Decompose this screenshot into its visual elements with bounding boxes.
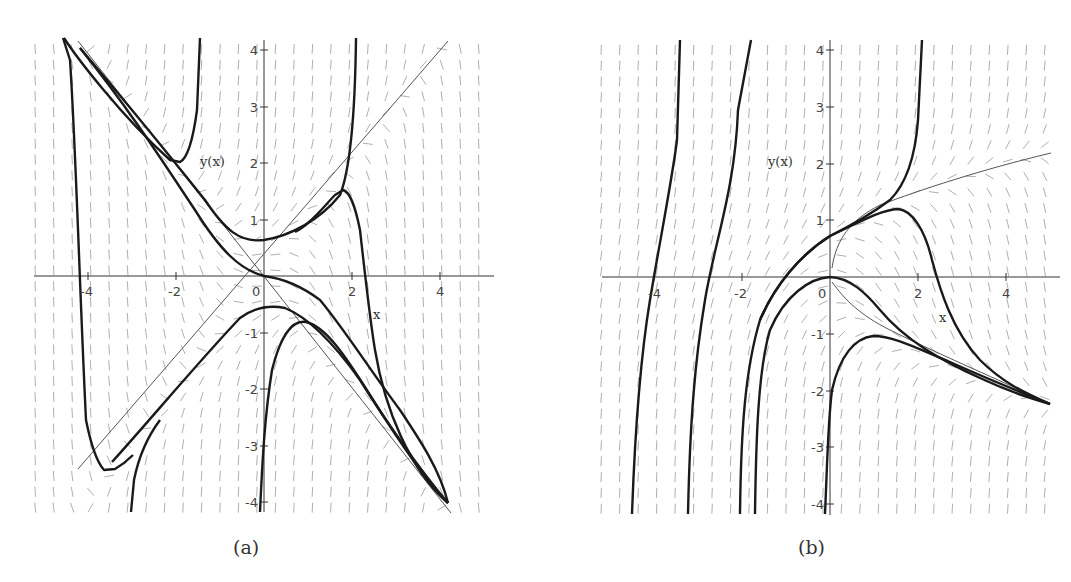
field-arrow	[127, 155, 128, 165]
field-arrow	[896, 108, 897, 118]
field-arrow	[749, 140, 750, 150]
field-arrow	[896, 440, 897, 450]
field-arrow	[1006, 124, 1009, 134]
field-arrow	[730, 409, 731, 419]
field-arrow	[272, 330, 278, 338]
field-arrow	[929, 365, 939, 367]
field-arrow	[1044, 456, 1045, 466]
curve-upper-left-cusp	[64, 38, 200, 162]
field-arrow	[932, 235, 936, 244]
field-arrow	[785, 187, 787, 197]
field-arrow	[161, 409, 168, 416]
field-arrow	[818, 254, 827, 258]
y-tick-label: 1	[250, 213, 258, 228]
field-arrow	[970, 251, 972, 261]
field-arrow	[460, 439, 461, 449]
field-arrow	[90, 107, 91, 117]
field-arrow	[601, 425, 602, 435]
field-arrow	[1007, 456, 1008, 466]
field-arrow	[875, 237, 883, 244]
field-arrow	[952, 77, 953, 87]
y-tick-label: 4	[816, 43, 824, 58]
field-arrow	[822, 425, 823, 435]
field-arrow	[767, 409, 768, 419]
field-arrow	[767, 488, 768, 498]
field-arrow	[365, 155, 370, 164]
field-arrow	[423, 139, 424, 149]
field-arrow	[859, 393, 861, 403]
field-arrow	[822, 409, 823, 419]
field-arrow	[767, 472, 768, 482]
field-arrow	[309, 187, 315, 195]
field-arrow	[970, 298, 973, 308]
y-tick-label: 4	[250, 43, 258, 58]
field-arrow	[423, 218, 424, 228]
field-arrow	[969, 409, 972, 419]
field-arrow	[459, 44, 461, 54]
field-arrow	[637, 235, 639, 245]
y-tick-label: -3	[245, 439, 258, 454]
field-arrow	[238, 439, 239, 449]
y-tick-label: -1	[811, 327, 824, 342]
field-arrow	[348, 345, 352, 354]
field-arrow	[349, 471, 350, 481]
field-arrow	[90, 170, 91, 180]
field-arrow	[896, 124, 897, 134]
field-arrow	[823, 456, 824, 466]
field-arrow	[400, 96, 410, 98]
field-arrow	[109, 155, 110, 165]
field-arrow	[90, 76, 92, 86]
field-arrow	[619, 156, 620, 166]
field-arrow	[238, 408, 239, 418]
field-arrow	[294, 503, 295, 513]
field-arrow	[748, 346, 750, 356]
lower-isocline	[832, 282, 1050, 404]
field-arrow	[985, 174, 994, 179]
field-arrow	[238, 503, 239, 513]
field-arrow	[1006, 362, 1011, 371]
field-arrow	[1044, 346, 1046, 356]
field-arrow	[766, 314, 770, 323]
field-arrow	[766, 235, 770, 244]
field-arrow	[1044, 488, 1045, 498]
field-arrow	[88, 503, 93, 512]
field-arrow	[860, 504, 861, 514]
field-arrow	[348, 218, 351, 228]
field-arrow	[199, 234, 203, 243]
field-arrow	[442, 345, 443, 355]
field-arrow	[874, 223, 884, 226]
field-arrow	[423, 107, 425, 117]
field-arrow	[638, 172, 639, 182]
field-arrow	[915, 61, 916, 71]
field-arrow	[841, 140, 843, 150]
field-arrow	[952, 92, 953, 102]
field-arrow	[275, 455, 276, 465]
field-arrow	[749, 124, 750, 134]
field-arrow	[878, 124, 879, 134]
field-arrow	[349, 439, 351, 449]
field-arrow	[423, 392, 424, 402]
field-arrow	[441, 139, 442, 149]
y-tick-label: 2	[816, 157, 824, 172]
field-arrow	[386, 281, 387, 291]
field-arrow	[804, 140, 805, 150]
field-arrow	[386, 202, 387, 212]
field-arrow	[951, 409, 953, 419]
field-arrow	[876, 283, 882, 291]
field-arrow	[329, 297, 333, 306]
field-arrow	[637, 330, 639, 340]
field-arrow	[349, 76, 350, 86]
field-arrow	[801, 236, 807, 244]
field-arrow	[749, 456, 750, 466]
y-tick-label: -4	[811, 497, 824, 512]
x-tick-label: 2	[348, 284, 356, 299]
field-arrow	[838, 331, 845, 338]
field-arrow	[256, 408, 257, 418]
field-arrow	[460, 123, 461, 133]
field-arrow	[601, 377, 602, 387]
field-arrow	[107, 456, 111, 465]
field-arrow	[878, 92, 879, 102]
field-arrow	[294, 60, 295, 70]
field-arrow	[403, 76, 407, 85]
field-arrow	[802, 220, 807, 229]
